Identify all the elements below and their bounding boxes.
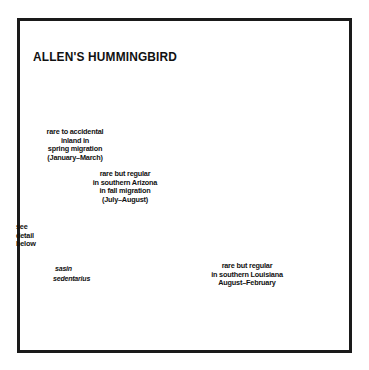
subspecies-label-sasin: sasin [55,265,72,273]
annotation-see-detail-below: see detail below [16,223,52,249]
annotation-arizona-fall: rare but regular in southern Arizona in … [74,170,176,204]
subspecies-label-sedentarius: sedentarius [53,275,90,283]
map-frame [17,18,352,353]
annotation-louisiana-winter: rare but regular in southern Louisiana A… [189,262,305,288]
annotation-spring-migration: rare to accidental inland in spring migr… [25,128,125,162]
range-map-page: ?? ?? ?? ? [0,0,369,370]
map-title: ALLEN'S HUMMINGBIRD [33,49,177,64]
